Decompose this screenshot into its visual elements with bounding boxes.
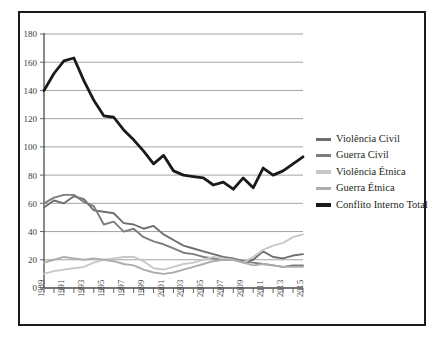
legend-item-label: Violência Civil [336,134,400,145]
legend-item-label: Violência Étnica [336,167,406,178]
series-line [44,195,303,267]
x-axis-tick-label: 2001 [156,280,166,297]
legend-item-label: Conflito Interno Total [336,200,428,211]
y-axis-tick-label: 180 [24,29,38,39]
legend-swatch-icon [316,203,331,207]
legend-swatch-icon [316,170,331,173]
series-line [44,196,303,261]
legend-item: Guerra Civil [316,147,436,163]
x-axis-tick-label: 2005 [195,280,205,297]
x-axis-tick-label: 1995 [96,280,106,297]
x-axis-tick-label: 2007 [215,279,225,297]
legend-swatch-icon [316,154,331,157]
y-axis-tick-label: 20 [28,255,38,265]
legend-item: Violência Étnica [316,164,436,180]
legend-item: Violência Civil [316,131,436,147]
y-axis-tick-label: 140 [24,86,38,96]
chart-legend: Violência CivilGuerra CivilViolência Étn… [316,131,436,213]
x-axis-tick-label: 2011 [255,280,265,297]
x-axis-tick-label: 1989 [36,280,46,297]
y-axis-tick-label: 40 [28,227,38,237]
legend-item-label: Guerra Étnica [336,183,395,194]
y-axis-tick-label: 160 [24,58,38,68]
legend-swatch-icon [316,187,331,190]
legend-item: Guerra Étnica [316,180,436,196]
y-axis-tick-label: 120 [24,114,38,124]
y-axis-tick-label: 60 [28,199,38,209]
x-axis-tick-label: 2003 [175,280,185,297]
legend-swatch-icon [316,138,331,141]
x-axis-tick-label: 1991 [56,280,66,297]
legend-item: Conflito Interno Total [316,197,436,213]
series-line [44,58,303,189]
y-axis-tick-label: 80 [28,171,38,181]
x-axis-tick-label: 2013 [275,280,285,297]
x-axis-tick-label: 2009 [235,280,245,297]
x-axis-tick-label: 1999 [136,280,146,297]
x-axis-tick-label: 1993 [76,280,86,297]
chart-figure: 0204060801001201401601801989199119931995… [0,0,444,343]
x-axis-tick-label: 1997 [116,279,126,297]
legend-item-label: Guerra Civil [336,150,389,161]
y-axis-tick-label: 100 [24,142,38,152]
x-axis-tick-label: 2015 [295,280,305,297]
